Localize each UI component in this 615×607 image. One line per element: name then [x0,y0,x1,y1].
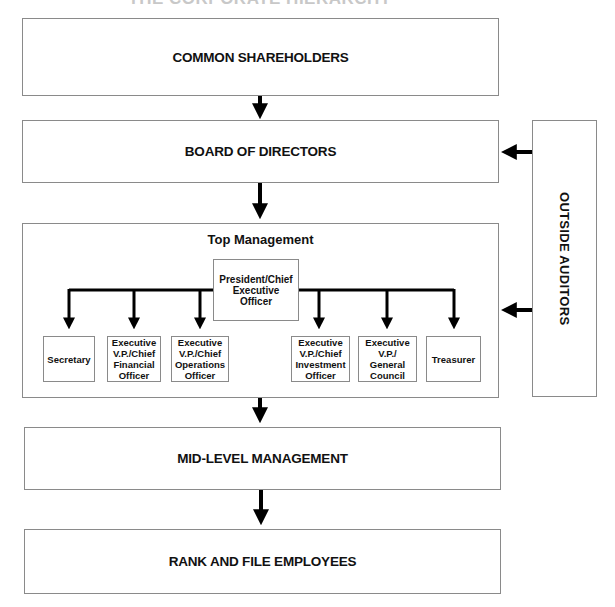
officer-box-secretary: Secretary [43,336,95,382]
common-shareholders-label: COMMON SHAREHOLDERS [172,50,348,65]
board-of-directors-label: BOARD OF DIRECTORS [185,144,336,159]
rank-and-file-box: RANK AND FILE EMPLOYEES [24,529,501,594]
officer-label: Executive V.P./Chief Financial Officer [110,337,158,381]
mid-level-management-box: MID-LEVEL MANAGEMENT [24,427,501,490]
officer-label: Secretary [47,354,90,365]
officer-label: Executive V.P./Chief Operations Officer [174,337,226,381]
officer-box-treasurer: Treasurer [426,336,481,382]
top-management-label: Top Management [23,232,498,247]
officer-label: Executive V.P./ General Council [361,337,414,381]
common-shareholders-box: COMMON SHAREHOLDERS [22,18,499,96]
ceo-label: President/Chief Executive Officer [216,274,296,307]
officer-label: Treasurer [432,354,475,365]
mid-level-management-label: MID-LEVEL MANAGEMENT [177,451,348,466]
board-of-directors-box: BOARD OF DIRECTORS [22,120,499,183]
rank-and-file-label: RANK AND FILE EMPLOYEES [169,554,357,569]
officer-box-cio: Executive V.P./Chief Investment Officer [291,336,350,382]
outside-auditors-label: OUTSIDE AUDITORS [557,192,572,325]
ceo-box: President/Chief Executive Officer [213,259,299,321]
officer-box-cfo: Executive V.P./Chief Financial Officer [107,336,161,382]
officer-box-coo: Executive V.P./Chief Operations Officer [171,336,229,382]
officer-box-general-council: Executive V.P./ General Council [358,336,417,382]
outside-auditors-box: OUTSIDE AUDITORS [532,120,597,397]
officer-label: Executive V.P./Chief Investment Officer [294,337,347,381]
